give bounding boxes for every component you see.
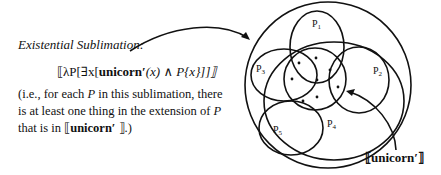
venn-diagram: P1 P2 P3 P4 P5 [0,0,441,175]
label-p3: P3 [256,63,266,76]
label-p1: P1 [312,18,322,31]
label-p5: P5 [273,124,283,137]
unicorn-extension-label: ⟦unicorn′⟧ [365,150,424,166]
sublimation-circle [245,2,411,168]
label-p4: P4 [327,118,337,131]
label-p2: P2 [373,65,383,78]
arrow-to-sublimation [130,27,250,51]
